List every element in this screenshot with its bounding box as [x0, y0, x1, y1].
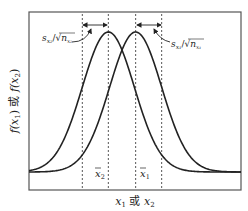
left-sd-label: sx₂/√nx₂ [42, 33, 72, 44]
mean2-label: x2 [95, 168, 105, 181]
density-curve-2 [29, 32, 241, 172]
x-axis-label: x1 或 x2 [115, 195, 154, 209]
normal-curves-diagram: sx₂/√nx₂ sx₁/√nx₁ x2 x1 x1 或 x2 f(x1) 或 … [0, 0, 248, 211]
density-curve-1 [29, 32, 241, 172]
y-axis-label: f(x1) 或 f(x2) [8, 69, 22, 135]
right-sd-label: sx₁/√nx₁ [171, 39, 201, 50]
left-sd-leader [72, 29, 91, 42]
mean1-label: x1 [140, 168, 150, 181]
